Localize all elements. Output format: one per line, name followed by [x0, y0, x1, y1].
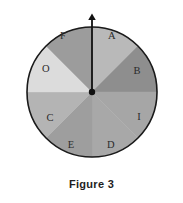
figure-caption: Figure 3: [0, 178, 183, 191]
sector-label-f: F: [60, 30, 66, 41]
spinner-hub[interactable]: [89, 89, 95, 95]
figure-container: ABIDECOF Figure 3: [0, 0, 183, 203]
sector-label-c: C: [46, 112, 53, 123]
spinner-wheel[interactable]: ABIDECOF: [0, 0, 183, 203]
sector-label-b: B: [133, 65, 140, 76]
sector-label-d: D: [107, 139, 115, 150]
sector-label-o: O: [42, 63, 50, 74]
sector-label-a: A: [108, 30, 116, 41]
sector-label-i: I: [137, 111, 141, 122]
sector-label-e: E: [68, 139, 75, 150]
